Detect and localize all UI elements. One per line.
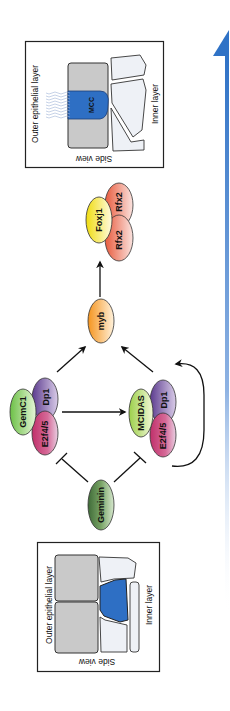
myb-node: myb (88, 299, 114, 343)
mcc-label: MCC (88, 97, 95, 113)
top-inner-layer-label: Inner layer (150, 84, 160, 124)
top-outer-layer-label: Outer epithelial layer (30, 65, 40, 143)
foxj1-rfx2-complex: Foxj1 Rfx2 Rfx2 (86, 183, 133, 261)
inhibit-mcidas (114, 458, 140, 482)
gemc1-complex: GemC1 Dp1 E2f4/5 (10, 378, 58, 455)
rfx2-label-bottom: Rfx2 (114, 230, 124, 250)
mcidas-label: MCIDAS (136, 395, 146, 431)
bottom-inner-layer-label: Inner layer (144, 585, 154, 625)
inhibit-gemc1 (62, 459, 88, 482)
geminin-node: Geminin (88, 480, 114, 530)
arrow-mcidas-autoregulation (172, 364, 204, 467)
top-panel-side-view: MCC Outer epithelial layer Inner layer S… (26, 42, 164, 168)
gemc1-label: GemC1 (18, 396, 28, 428)
geminin-inhibition-edges (56, 452, 146, 482)
mcidas-complex: MCIDAS Dp1 E2f4/5 (129, 380, 176, 457)
dp1-label-b: Dp1 (159, 391, 169, 408)
e2f45-label-a: E2f4/5 (40, 421, 50, 448)
bottom-side-view-label: Side view (78, 657, 115, 667)
bottom-panel-side-view: Outer epithelial layer Inner layer Side … (38, 543, 160, 672)
bottom-outer-layer-label: Outer epithelial layer (44, 566, 54, 644)
myb-label: myb (96, 311, 106, 330)
geminin-label: Geminin (96, 487, 106, 523)
arrow-mcidas-to-myb (122, 347, 153, 372)
e2f45-label-b: E2f4/5 (158, 423, 168, 450)
progression-arrow (213, 30, 229, 615)
rfx2-label-top: Rfx2 (114, 192, 124, 212)
arrow-gemc1-to-myb (57, 347, 85, 372)
ciliogenesis-diagram: MCC Outer epithelial layer Inner layer S… (0, 0, 230, 711)
dp1-label-a: Dp1 (41, 388, 51, 405)
foxj1-label: Foxj1 (94, 208, 104, 232)
top-side-view-label: Side view (75, 154, 112, 164)
